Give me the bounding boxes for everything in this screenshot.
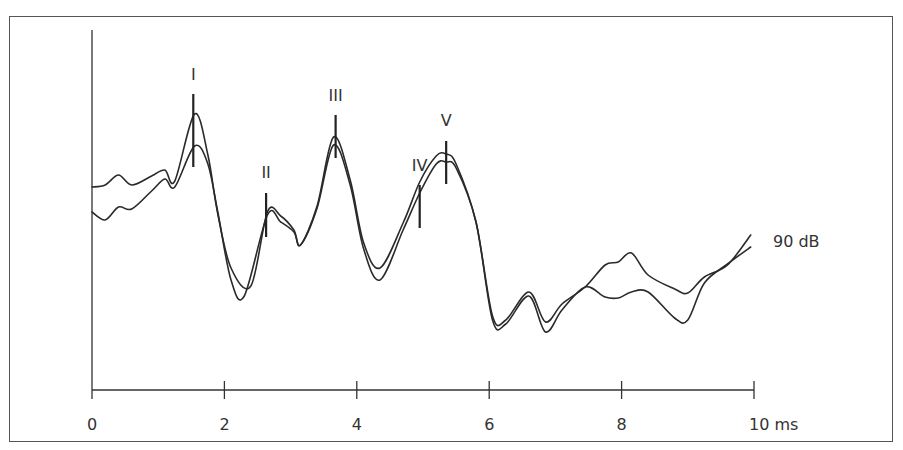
x-tick-label: 8 <box>617 415 627 434</box>
peak-label-i: I <box>191 65 196 84</box>
peak-label-ii: II <box>261 163 270 182</box>
waveform-trace-1 <box>92 114 751 326</box>
intensity-label: 90 dB <box>773 232 820 251</box>
peak-markers: IIIIIIIVV <box>191 65 452 237</box>
x-tick-label: 4 <box>352 415 362 434</box>
peak-label-iv: IV <box>412 156 428 175</box>
x-axis-tick-labels: 0246810 ms <box>87 415 798 434</box>
x-tick-label: 2 <box>219 415 229 434</box>
x-tick-label: 6 <box>484 415 494 434</box>
x-tick-label: 0 <box>87 415 97 434</box>
peak-label-iii: III <box>329 86 343 105</box>
x-tick-label: 10 ms <box>749 415 798 434</box>
abr-waveform-chart: 0246810 ms IIIIIIIVV 90 dB <box>0 0 903 450</box>
peak-label-v: V <box>441 111 452 130</box>
